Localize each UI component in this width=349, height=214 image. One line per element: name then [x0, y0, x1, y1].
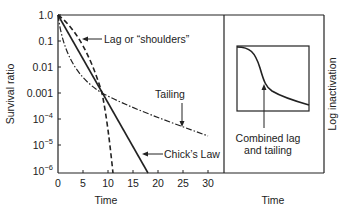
y-tick-1e-6: 10−6: [33, 163, 53, 177]
inset-combined-chart: Combined lag and tailing: [236, 46, 309, 156]
annotation-lag: Lag or “shoulders”: [82, 33, 190, 45]
y-tick-0.01: 0.01: [33, 61, 54, 73]
svg-text:10: 10: [102, 177, 114, 189]
svg-text:and tailing: and tailing: [244, 144, 292, 156]
svg-text:Chick’s Law: Chick’s Law: [164, 148, 220, 160]
series-combined: [237, 47, 309, 105]
x-tick-labels: 0 5 10 15 20 25 30: [55, 177, 214, 189]
annotation-chicks-law: Chick’s Law: [142, 148, 220, 160]
svg-text:20: 20: [152, 177, 164, 189]
y-axis-label-left: Survival ratio: [4, 64, 16, 125]
svg-text:5: 5: [80, 177, 86, 189]
x-axis-label-left: Time: [95, 194, 118, 206]
svg-text:Tailing: Tailing: [155, 88, 185, 100]
y-tick-1e-5: 10−5: [33, 137, 53, 151]
annotation-tailing: Tailing: [155, 88, 185, 127]
y-tick-0.001: 0.001: [27, 87, 53, 99]
svg-text:Lag or “shoulders”: Lag or “shoulders”: [104, 33, 190, 45]
survival-chart: 1.0 0.1 0.01 0.001 10−4 10−5 10−6 0 5 10…: [0, 0, 349, 214]
y-tick-1: 1.0: [38, 9, 53, 21]
svg-text:15: 15: [127, 177, 139, 189]
svg-text:25: 25: [177, 177, 189, 189]
arrow-left-icon: [82, 37, 88, 42]
x-axis-label-right: Time: [262, 194, 285, 206]
y-axis-label-right: Log inactivation: [326, 57, 338, 130]
arrow-left-icon: [142, 152, 148, 157]
svg-text:30: 30: [202, 177, 214, 189]
y-tick-1e-4: 10−4: [33, 111, 53, 125]
svg-text:0: 0: [55, 177, 61, 189]
y-tick-labels: 1.0 0.1 0.01 0.001 10−4 10−5 10−6: [27, 9, 53, 177]
svg-text:Combined lag: Combined lag: [236, 132, 301, 144]
y-tick-0.1: 0.1: [38, 35, 53, 47]
